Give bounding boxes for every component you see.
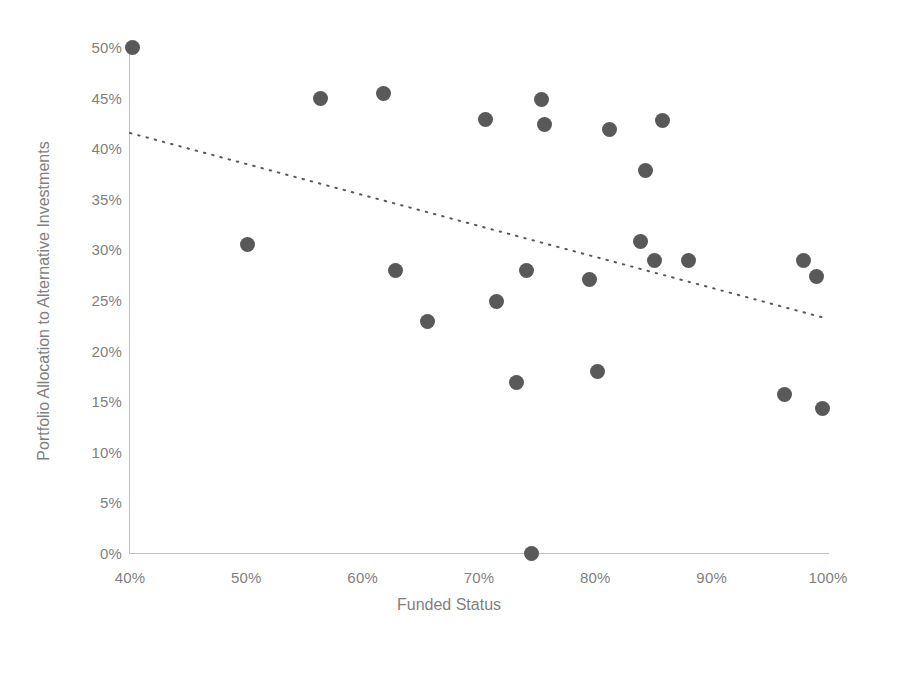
data-point [478,112,493,127]
y-axis-tick-label: 45% [91,89,122,106]
data-point [534,92,549,107]
data-point [638,163,653,178]
data-point [777,387,792,402]
y-axis-tick-label: 25% [91,292,122,309]
plot-area [130,47,828,553]
data-point [519,263,534,278]
x-axis-tick-label: 60% [347,569,378,586]
y-axis-tick-label: 30% [91,241,122,258]
x-axis-tick-label: 40% [115,569,146,586]
data-point [240,237,255,252]
x-axis-tick-labels: 40%50%60%70%80%90%100% [0,561,898,591]
data-point [125,40,140,55]
y-axis-tick-label: 10% [91,443,122,460]
x-axis-title: Funded Status [0,596,898,614]
y-axis-tick-label: 5% [100,494,122,511]
data-point [509,375,524,390]
data-point [313,91,328,106]
data-point [489,294,504,309]
data-point [590,364,605,379]
data-point [655,113,670,128]
scatter-chart: 0%5%10%15%20%25%30%35%40%45%50% 40%50%60… [0,0,898,674]
x-axis-line [130,553,829,554]
y-axis-tick-label: 40% [91,140,122,157]
data-point [796,253,811,268]
y-axis-title: Portfolio Allocation to Alternative Inve… [35,51,53,551]
y-axis-tick-label: 15% [91,393,122,410]
data-point [524,546,539,561]
x-axis-tick-label: 80% [580,569,611,586]
data-point [388,263,403,278]
data-point [537,117,552,132]
data-point [815,401,830,416]
x-axis-tick-label: 90% [696,569,727,586]
y-axis-tick-label: 20% [91,342,122,359]
y-axis-tick-label: 35% [91,190,122,207]
x-axis-tick-label: 70% [464,569,495,586]
data-point [582,272,597,287]
y-axis-tick-label: 50% [91,39,122,56]
x-axis-tick-label: 100% [808,569,847,586]
data-point [809,269,824,284]
data-point [420,314,435,329]
y-axis-tick-label: 0% [100,545,122,562]
data-point [681,253,696,268]
data-point [647,253,662,268]
data-point [633,234,648,249]
data-point [376,86,391,101]
data-point [602,122,617,137]
x-axis-tick-label: 50% [231,569,262,586]
